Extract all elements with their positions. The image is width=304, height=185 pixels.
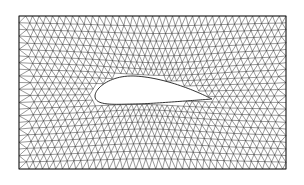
triangular-mesh xyxy=(0,0,304,185)
mesh-figure xyxy=(0,0,304,185)
